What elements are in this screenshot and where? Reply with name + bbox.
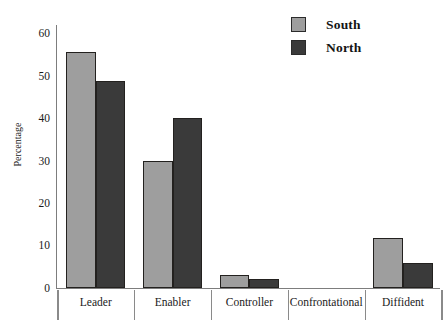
y-axis-title-text: Percentage [13,123,24,167]
y-axis-tick-40: 40 [39,112,51,124]
x-axis-label-controller: Controller [226,296,273,308]
y-axis-title: Percentage [8,0,28,289]
x-axis-separator [211,290,212,320]
y-axis-tick-30: 30 [39,155,51,167]
bar-north-diffident [403,263,433,288]
y-axis-line [56,25,57,289]
x-axis-label-diffident: Diffident [382,296,424,308]
plot-area: 0102030405060 [56,25,440,289]
x-axis-separator [57,290,58,320]
bar-south-enabler [143,161,173,287]
x-axis-separator [288,290,289,320]
y-axis-tick-60: 60 [39,27,51,39]
x-axis-separator [441,290,442,320]
bar-north-enabler [173,118,203,287]
y-axis-tick-10: 10 [39,239,51,251]
bar-south-controller [220,275,250,288]
x-axis-line [56,288,440,289]
x-axis-label-leader: Leader [80,296,112,308]
y-axis-tick-50: 50 [39,70,51,82]
x-axis-label-confrontational: Confrontational [290,296,363,308]
bar-chart: South North Percentage 0102030405060 Lea… [0,0,446,324]
y-axis-tick-0: 0 [44,282,50,294]
bar-south-diffident [373,238,403,288]
bar-south-leader [66,52,96,288]
x-axis-separator [365,290,366,320]
x-axis-separator [134,290,135,320]
y-axis-tick-20: 20 [39,197,51,209]
x-axis-label-enabler: Enabler [155,296,191,308]
bar-north-controller [249,279,279,287]
bar-north-leader [96,81,126,287]
